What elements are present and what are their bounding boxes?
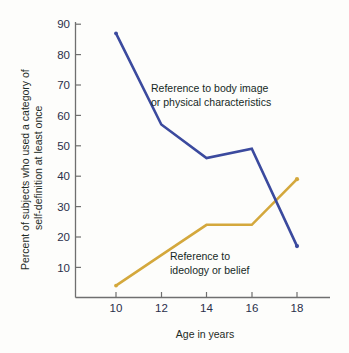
y-tick-label-20: 20 xyxy=(57,231,70,243)
y-tick-label-40: 40 xyxy=(57,170,70,182)
data-point-blue-18 xyxy=(295,244,299,248)
y-tick-label-10: 10 xyxy=(57,262,70,274)
x-tick-label-14: 14 xyxy=(200,302,213,314)
chart-figure: 90 80 70 60 50 40 30 20 10 10 12 14 16 1… xyxy=(0,0,349,353)
y-tick-label-30: 30 xyxy=(57,201,70,213)
data-point-gold-10 xyxy=(114,284,118,288)
line-chart-svg: 90 80 70 60 50 40 30 20 10 10 12 14 16 1… xyxy=(0,0,349,353)
chart-background xyxy=(0,0,349,353)
x-tick-label-16: 16 xyxy=(246,302,259,314)
ideology-annotation-line2: ideology or belief xyxy=(170,264,249,276)
data-point-blue-10 xyxy=(114,31,118,35)
y-tick-label-80: 80 xyxy=(57,49,70,61)
y-tick-label-60: 60 xyxy=(57,110,70,122)
y-tick-label-50: 50 xyxy=(57,140,70,152)
y-tick-label-70: 70 xyxy=(57,79,70,91)
y-axis-tick-labels: 90 80 70 60 50 40 30 20 10 xyxy=(57,18,70,273)
data-point-gold-18 xyxy=(295,177,299,181)
y-axis-title-line1: Percent of subjects who used a category … xyxy=(19,69,31,270)
y-axis-title-line2: self-definition at least once xyxy=(32,106,44,230)
x-tick-label-12: 12 xyxy=(155,302,168,314)
x-axis-title: Age in years xyxy=(176,328,234,340)
body-image-annotation-line1: Reference to body image xyxy=(151,82,268,94)
x-tick-label-18: 18 xyxy=(291,302,304,314)
x-tick-label-10: 10 xyxy=(110,302,123,314)
body-image-annotation-line2: or physical characteristics xyxy=(151,96,271,108)
y-tick-label-90: 90 xyxy=(57,18,70,30)
ideology-annotation-line1: Reference to xyxy=(170,250,230,262)
